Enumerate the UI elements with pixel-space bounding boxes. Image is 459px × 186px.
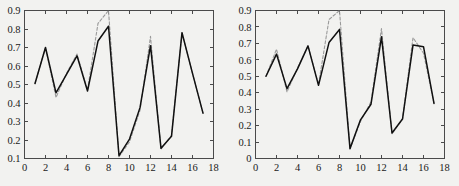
y-tick-label: 0.9 bbox=[238, 5, 251, 16]
series-line-solid bbox=[266, 29, 434, 148]
y-tick-label: 0.2 bbox=[238, 120, 251, 131]
series-line-solid bbox=[35, 26, 203, 155]
chart-panel-right: 02468101214161800.10.20.30.40.50.60.70.8… bbox=[229, 0, 459, 186]
x-tick-label: 6 bbox=[316, 162, 321, 173]
y-tick-label: 0.4 bbox=[238, 87, 252, 98]
x-tick-label: 14 bbox=[166, 162, 177, 173]
y-tick-label: 0.3 bbox=[7, 116, 20, 127]
chart-svg-left: 0246810121416180.10.20.30.40.50.60.70.80… bbox=[0, 0, 229, 186]
x-tick-label: 2 bbox=[43, 162, 48, 173]
y-tick-label: 0.1 bbox=[238, 137, 251, 148]
x-tick-label: 18 bbox=[439, 162, 450, 173]
y-tick-label: 0.6 bbox=[7, 61, 20, 72]
x-tick-label: 2 bbox=[274, 162, 279, 173]
series-line-dashed bbox=[35, 11, 203, 157]
plot-area-left: 0246810121416180.10.20.30.40.50.60.70.80… bbox=[7, 5, 218, 172]
y-tick-label: 0 bbox=[246, 153, 251, 164]
x-tick-label: 10 bbox=[124, 162, 135, 173]
chart-panel-left: 0246810121416180.10.20.30.40.50.60.70.80… bbox=[0, 0, 229, 186]
x-tick-label: 6 bbox=[85, 162, 90, 173]
x-tick-label: 14 bbox=[397, 162, 408, 173]
y-tick-label: 0.3 bbox=[238, 104, 251, 115]
chart-svg-right: 02468101214161800.10.20.30.40.50.60.70.8… bbox=[229, 0, 459, 186]
x-tick-label: 8 bbox=[106, 162, 111, 173]
x-tick-label: 16 bbox=[418, 162, 429, 173]
x-tick-label: 12 bbox=[376, 162, 387, 173]
x-tick-label: 8 bbox=[337, 162, 342, 173]
plot-box-border bbox=[256, 11, 445, 159]
y-tick-label: 0.5 bbox=[238, 71, 251, 82]
x-tick-label: 10 bbox=[355, 162, 366, 173]
y-tick-label: 0.2 bbox=[7, 135, 20, 146]
y-tick-label: 0.8 bbox=[7, 24, 20, 35]
y-tick-label: 0.7 bbox=[238, 38, 251, 49]
y-tick-label: 0.5 bbox=[7, 79, 20, 90]
x-tick-label: 16 bbox=[187, 162, 198, 173]
figure-container: 0246810121416180.10.20.30.40.50.60.70.80… bbox=[0, 0, 459, 186]
y-tick-label: 0.1 bbox=[7, 153, 20, 164]
x-tick-label: 0 bbox=[22, 162, 27, 173]
x-tick-label: 12 bbox=[145, 162, 156, 173]
y-tick-label: 0.4 bbox=[7, 98, 21, 109]
y-tick-label: 0.7 bbox=[7, 42, 20, 53]
y-tick-label: 0.6 bbox=[238, 55, 251, 66]
x-tick-label: 4 bbox=[64, 162, 70, 173]
x-tick-label: 18 bbox=[208, 162, 219, 173]
y-tick-label: 0.9 bbox=[7, 5, 20, 16]
x-tick-label: 4 bbox=[295, 162, 301, 173]
x-tick-label: 0 bbox=[253, 162, 258, 173]
y-tick-label: 0.8 bbox=[238, 22, 251, 33]
plot-area-right: 02468101214161800.10.20.30.40.50.60.70.8… bbox=[238, 5, 449, 172]
